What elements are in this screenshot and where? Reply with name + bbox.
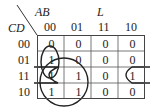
cell: 1 — [65, 84, 92, 100]
cell: 0 — [92, 84, 119, 100]
col-var-label: AB — [35, 6, 50, 18]
cell: 0 — [119, 84, 146, 100]
col-header: 11 — [98, 21, 110, 33]
cell: 0 — [92, 36, 119, 52]
col-header: 01 — [71, 21, 83, 33]
row-var-label: CD — [8, 22, 25, 34]
cell: 0 — [65, 36, 92, 52]
cell: 0 — [38, 36, 65, 52]
cell: 0 — [119, 52, 146, 68]
cell: 0 — [92, 68, 119, 84]
cell: 1 — [65, 68, 92, 84]
cell: 0 — [65, 52, 92, 68]
col-header: 00 — [44, 21, 56, 33]
function-label: L — [97, 6, 104, 18]
row-header: 10 — [18, 86, 30, 98]
row-header: 11 — [18, 70, 30, 82]
cell: 1 — [38, 68, 65, 84]
cell: 0 — [92, 52, 119, 68]
cell: 1 — [38, 52, 65, 68]
row-header: 01 — [18, 54, 30, 66]
kmap-grid: 0 0 0 0 1 0 0 0 1 1 0 1 1 1 0 0 — [37, 35, 145, 99]
cell: 0 — [119, 36, 146, 52]
row-header: 00 — [18, 38, 30, 50]
cell: 1 — [38, 84, 65, 100]
cell: 1 — [119, 68, 146, 84]
col-header: 10 — [125, 21, 137, 33]
